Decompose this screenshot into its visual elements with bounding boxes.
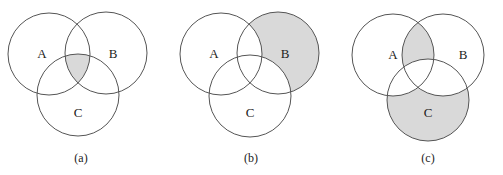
shaded-region-c-only	[0, 0, 503, 175]
venn-diagram-c: A B C (c)	[0, 0, 503, 175]
label-b: B	[459, 47, 468, 62]
caption-c: (c)	[421, 151, 434, 165]
venn-figure: A B C (a) A B C (b) A B C (c)	[0, 0, 503, 175]
label-a: A	[388, 47, 398, 62]
label-c: C	[424, 105, 433, 120]
